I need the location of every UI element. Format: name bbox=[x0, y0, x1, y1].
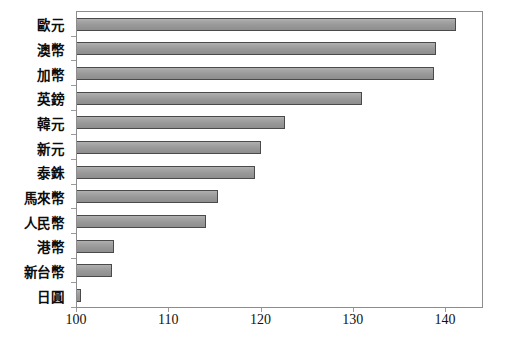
y-axis-label: 澳幣 bbox=[0, 37, 70, 62]
y-axis-tick-marks bbox=[70, 12, 76, 308]
x-axis-tick-label: 110 bbox=[158, 312, 178, 328]
y-axis-tick bbox=[70, 185, 76, 210]
x-axis-tick-label: 100 bbox=[66, 312, 87, 328]
bar-row bbox=[77, 111, 482, 136]
y-axis-tick bbox=[70, 283, 76, 308]
y-axis-tick bbox=[70, 209, 76, 234]
bar-row bbox=[77, 37, 482, 62]
y-axis-tick bbox=[70, 160, 76, 185]
bar-row bbox=[77, 185, 482, 210]
y-axis-tick bbox=[70, 61, 76, 86]
y-axis-label: 韓元 bbox=[0, 111, 70, 136]
y-axis-label: 人民幣 bbox=[0, 209, 70, 234]
bar bbox=[77, 240, 114, 253]
y-axis-tick bbox=[70, 86, 76, 111]
bars-container bbox=[77, 12, 482, 308]
y-axis-tick bbox=[70, 111, 76, 136]
y-axis-tick bbox=[70, 259, 76, 284]
bar bbox=[77, 166, 255, 179]
bar bbox=[77, 18, 456, 31]
bar bbox=[77, 264, 112, 277]
bar-row bbox=[77, 135, 482, 160]
bar-row bbox=[77, 234, 482, 259]
y-axis-label: 港幣 bbox=[0, 234, 70, 259]
bar bbox=[77, 215, 206, 228]
y-axis-label: 新元 bbox=[0, 135, 70, 160]
y-axis-tick bbox=[70, 37, 76, 62]
bar-row bbox=[77, 283, 482, 308]
bar bbox=[77, 190, 218, 203]
y-axis-category-labels: 歐元澳幣加幣英鎊韓元新元泰銖馬來幣人民幣港幣新台幣日圓 bbox=[0, 12, 70, 308]
bar-row bbox=[77, 61, 482, 86]
bar-row bbox=[77, 86, 482, 111]
bar bbox=[77, 42, 436, 55]
y-axis-label: 英鎊 bbox=[0, 86, 70, 111]
y-axis-label: 歐元 bbox=[0, 12, 70, 37]
y-axis-label: 日圓 bbox=[0, 283, 70, 308]
bar bbox=[77, 67, 434, 80]
bar bbox=[77, 141, 261, 154]
bar-row bbox=[77, 209, 482, 234]
bar-chart: 歐元澳幣加幣英鎊韓元新元泰銖馬來幣人民幣港幣新台幣日圓 100110120130… bbox=[0, 0, 512, 347]
y-axis-tick bbox=[70, 12, 76, 37]
x-axis-tick-label: 130 bbox=[342, 312, 363, 328]
y-axis-tick bbox=[70, 234, 76, 259]
y-axis-label: 加幣 bbox=[0, 61, 70, 86]
x-axis-tick-labels: 100110120130140 bbox=[0, 312, 512, 334]
bar bbox=[77, 289, 81, 302]
y-axis-label: 馬來幣 bbox=[0, 185, 70, 210]
bar-row bbox=[77, 160, 482, 185]
y-axis-label: 泰銖 bbox=[0, 160, 70, 185]
bar bbox=[77, 116, 285, 129]
bar-row bbox=[77, 12, 482, 37]
bar bbox=[77, 92, 362, 105]
bar-row bbox=[77, 259, 482, 284]
x-axis-tick-label: 120 bbox=[250, 312, 271, 328]
y-axis-tick bbox=[70, 135, 76, 160]
y-axis-label: 新台幣 bbox=[0, 259, 70, 284]
x-axis-tick-label: 140 bbox=[435, 312, 456, 328]
